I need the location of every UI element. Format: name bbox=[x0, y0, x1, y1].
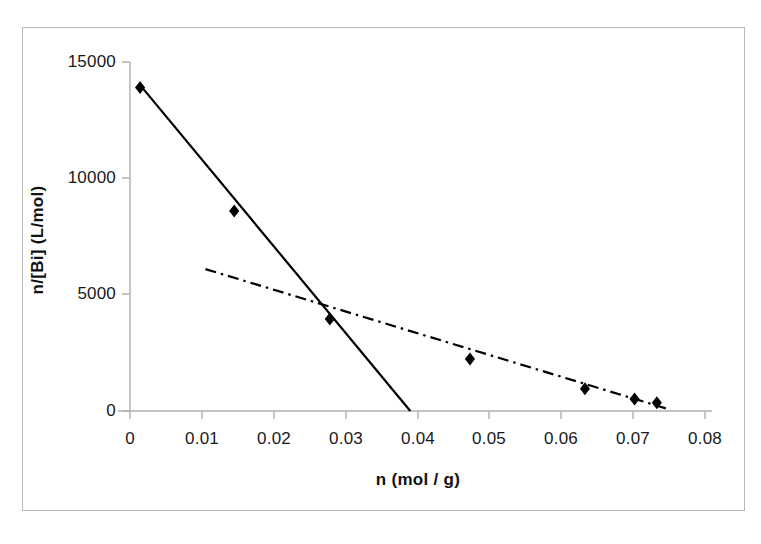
x-tick-label-0-06: 0.06 bbox=[544, 429, 578, 449]
x-tick-label-0-04: 0.04 bbox=[401, 429, 435, 449]
x-tick-label-0-07: 0.07 bbox=[616, 429, 650, 449]
x-tick-label-0-01: 0.01 bbox=[185, 429, 219, 449]
x-tick-label-0: 0 bbox=[125, 429, 135, 449]
x-tick-label-0-08: 0.08 bbox=[688, 429, 722, 449]
figure-caption bbox=[18, 522, 753, 544]
x-tick-label-0-05: 0.05 bbox=[472, 429, 506, 449]
y-tick-label-15000: 15000 bbox=[54, 52, 116, 72]
y-tick-label-5000: 5000 bbox=[54, 284, 116, 304]
chart-root: 15000 10000 5000 0 0 0.01 0.02 0.03 0.04… bbox=[0, 0, 761, 544]
y-tick-label-10000: 10000 bbox=[54, 168, 116, 188]
y-tick-label-0: 0 bbox=[54, 401, 116, 421]
x-tick-label-0-03: 0.03 bbox=[329, 429, 363, 449]
x-axis-title: n (mol / g) bbox=[376, 470, 461, 490]
x-tick-label-0-02: 0.02 bbox=[257, 429, 291, 449]
y-axis-title: n/[Bi] (L/mol) bbox=[28, 185, 48, 294]
